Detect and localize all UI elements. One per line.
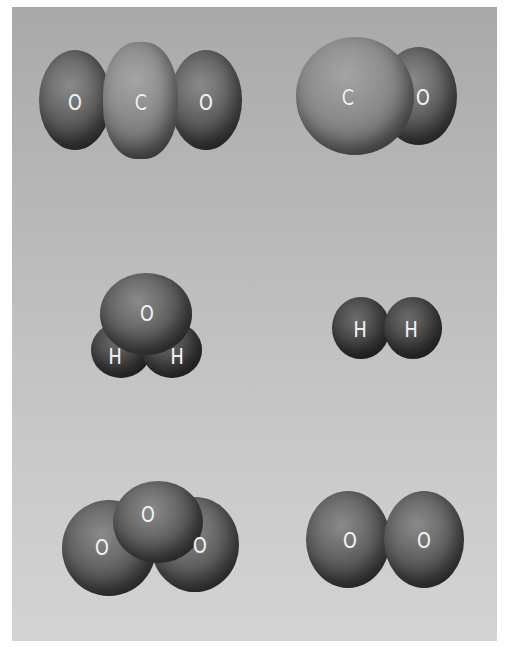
atom-label: O: [95, 537, 109, 559]
atom-label: O: [417, 530, 431, 552]
atom-label: O: [343, 530, 357, 552]
atom-label: O: [68, 92, 82, 114]
atom-label: C: [342, 87, 354, 109]
atom-label: O: [199, 92, 213, 114]
atom-label: O: [140, 303, 154, 325]
atom-oxygen: [113, 481, 203, 563]
atom-label: H: [353, 319, 366, 341]
atom-label: H: [108, 346, 121, 368]
atom-label: C: [135, 92, 147, 114]
atom-label: H: [170, 346, 183, 368]
atom-label: H: [404, 319, 417, 341]
atom-label: O: [141, 504, 155, 526]
atom-label: O: [193, 535, 207, 557]
atom-label: O: [416, 87, 430, 109]
atom-carbon: [296, 37, 414, 155]
